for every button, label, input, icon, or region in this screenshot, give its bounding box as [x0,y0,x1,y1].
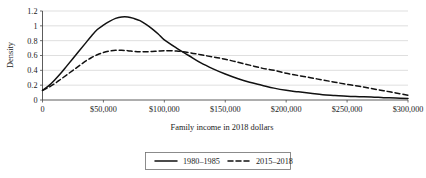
x-axis-title: Family income in 2018 dollars [171,123,274,132]
y-tick-label: 0.4 [27,66,37,75]
y-axis-title: Density [6,41,15,68]
y-tick-label: 0 [33,96,37,105]
x-tick-label: $150,000 [210,105,241,114]
x-tick-label: $100,000 [149,105,180,114]
x-tick-label: 0 [40,105,44,114]
chart-canvas: 00.20.40.60.811.2 0$50,000$100,000$150,0… [0,0,426,178]
y-tick-label: 1.2 [27,7,37,16]
y-tick-label: 1 [33,22,37,31]
x-tick-label: $300,000 [393,105,424,114]
series-line-1980-1985 [43,17,409,99]
series-line-2015-2018 [43,50,409,95]
x-tick-label: $50,000 [90,105,117,114]
y-tick-group: 00.20.40.60.811.2 [27,7,42,105]
x-tick-label: $250,000 [332,105,363,114]
legend: 1980–1985 2015–2018 [146,153,293,170]
y-tick-label: 0.2 [27,81,37,90]
density-chart-figure: 00.20.40.60.811.2 0$50,000$100,000$150,0… [0,0,426,178]
series-group [43,17,409,99]
x-tick-group: 0$50,000$100,000$150,000$200,000$250,000… [40,100,423,114]
y-tick-label: 0.6 [27,51,37,60]
y-tick-label: 0.8 [27,37,37,46]
legend-label-1980-1985: 1980–1985 [183,157,220,166]
legend-label-2015-2018: 2015–2018 [256,157,293,166]
x-tick-label: $200,000 [271,105,302,114]
